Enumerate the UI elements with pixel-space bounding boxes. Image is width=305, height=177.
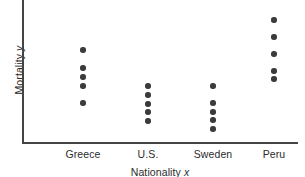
data-point xyxy=(80,47,85,52)
data-point xyxy=(271,68,276,73)
x-tick-label-greece: Greece xyxy=(65,148,100,160)
data-point xyxy=(145,92,150,97)
scatter-chart: Mortality y GreeceU.S.SwedenPeru Nationa… xyxy=(0,0,305,177)
data-point xyxy=(80,65,85,70)
x-tick-label-sweden: Sweden xyxy=(194,148,233,160)
data-point xyxy=(210,117,215,122)
x-tick-label-peru: Peru xyxy=(263,148,286,160)
data-point xyxy=(210,109,215,114)
data-point xyxy=(80,100,85,105)
data-point xyxy=(271,76,276,81)
data-point xyxy=(210,126,215,131)
data-point xyxy=(210,83,215,88)
data-point xyxy=(80,74,85,79)
x-axis-label-text: Nationality xyxy=(131,166,181,177)
data-point xyxy=(80,83,85,88)
data-point xyxy=(145,83,150,88)
data-point xyxy=(210,100,215,105)
data-point xyxy=(271,34,276,39)
x-axis-label: Nationality x xyxy=(131,166,190,177)
data-point xyxy=(145,101,150,106)
data-point xyxy=(271,51,276,56)
plot-area xyxy=(0,0,305,143)
x-axis-label-variable: x xyxy=(184,166,189,177)
x-tick-label-u-s: U.S. xyxy=(138,148,159,160)
data-point xyxy=(145,109,150,114)
data-point xyxy=(145,118,150,123)
data-point xyxy=(271,17,276,22)
